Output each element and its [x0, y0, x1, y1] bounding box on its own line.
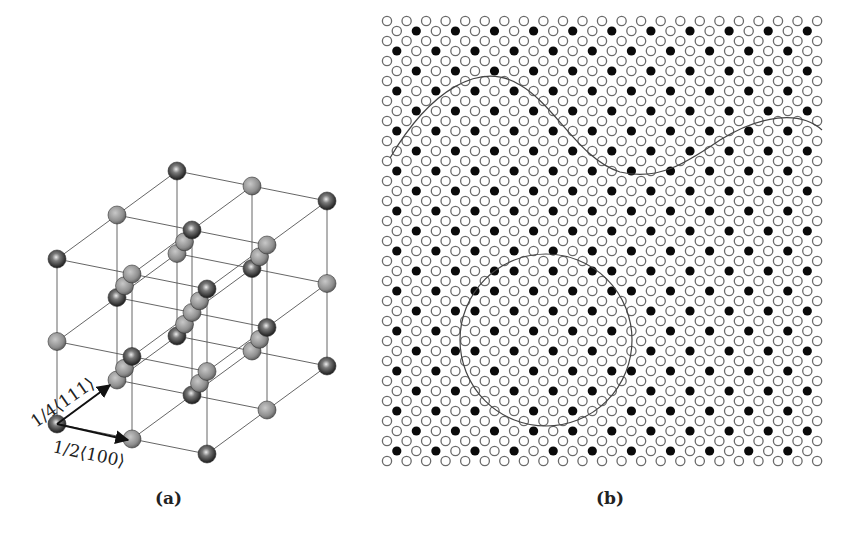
open-site: [392, 186, 401, 195]
open-site: [519, 456, 528, 465]
open-site: [578, 116, 587, 125]
open-site: [646, 46, 655, 55]
open-site: [813, 376, 822, 385]
open-site: [666, 266, 675, 275]
open-site: [813, 356, 822, 365]
filled-site: [646, 386, 655, 395]
open-site: [813, 96, 822, 105]
open-site: [461, 396, 470, 405]
open-site: [500, 436, 509, 445]
open-site: [451, 126, 460, 135]
open-site: [490, 46, 499, 55]
open-site: [607, 46, 616, 55]
open-site: [412, 366, 421, 375]
open-site: [509, 226, 518, 235]
open-site: [402, 316, 411, 325]
open-site: [519, 396, 528, 405]
filled-site: [705, 46, 714, 55]
open-site: [793, 136, 802, 145]
open-site: [734, 416, 743, 425]
open-site: [715, 116, 724, 125]
open-site: [402, 96, 411, 105]
open-site: [744, 226, 753, 235]
open-site: [597, 296, 606, 305]
open-site: [813, 56, 822, 65]
open-site: [637, 196, 646, 205]
filled-site: [705, 326, 714, 335]
filled-site: [764, 426, 773, 435]
open-site: [734, 376, 743, 385]
open-site: [441, 16, 450, 25]
filled-site: [470, 86, 479, 95]
open-site: [470, 426, 479, 435]
open-site: [441, 436, 450, 445]
open-site: [480, 316, 489, 325]
open-site: [754, 156, 763, 165]
open-site: [637, 116, 646, 125]
gray-atom: [108, 206, 126, 224]
open-site: [764, 246, 773, 255]
filled-site: [685, 226, 694, 235]
open-site: [519, 336, 528, 345]
open-site: [813, 336, 822, 345]
open-site: [715, 36, 724, 45]
open-site: [422, 56, 431, 65]
filled-site: [431, 206, 440, 215]
filled-site: [783, 166, 792, 175]
open-site: [813, 36, 822, 45]
open-site: [637, 336, 646, 345]
open-site: [813, 196, 822, 205]
open-site: [705, 266, 714, 275]
open-site: [597, 316, 606, 325]
filled-site: [549, 206, 558, 215]
open-site: [793, 456, 802, 465]
filled-site: [431, 406, 440, 415]
open-site: [773, 36, 782, 45]
open-site: [500, 156, 509, 165]
open-site: [422, 356, 431, 365]
filled-site: [490, 106, 499, 115]
open-site: [382, 316, 391, 325]
filled-site: [607, 266, 616, 275]
panel-label-a: (a): [155, 488, 182, 508]
filled-site: [549, 166, 558, 175]
open-site: [597, 356, 606, 365]
open-site: [461, 36, 470, 45]
open-site: [754, 196, 763, 205]
open-site: [754, 276, 763, 285]
open-site: [744, 266, 753, 275]
open-site: [461, 276, 470, 285]
filled-site: [783, 366, 792, 375]
filled-site: [529, 406, 538, 415]
open-site: [764, 326, 773, 335]
open-site: [676, 316, 685, 325]
open-site: [685, 406, 694, 415]
open-site: [500, 376, 509, 385]
open-site: [597, 436, 606, 445]
open-site: [431, 186, 440, 195]
filled-site: [412, 186, 421, 195]
open-site: [480, 136, 489, 145]
open-site: [725, 406, 734, 415]
open-site: [509, 326, 518, 335]
gray-atom: [258, 401, 276, 419]
open-site: [500, 56, 509, 65]
open-site: [715, 96, 724, 105]
open-site: [422, 16, 431, 25]
open-site: [558, 76, 567, 85]
filled-site: [646, 26, 655, 35]
filled-site: [803, 386, 812, 395]
filled-site: [392, 446, 401, 455]
filled-site: [392, 126, 401, 135]
open-site: [734, 436, 743, 445]
filled-site: [509, 446, 518, 455]
open-site: [773, 276, 782, 285]
open-site: [402, 16, 411, 25]
open-site: [441, 56, 450, 65]
filled-site: [412, 66, 421, 75]
open-site: [793, 236, 802, 245]
open-site: [734, 196, 743, 205]
open-site: [382, 196, 391, 205]
open-site: [412, 126, 421, 135]
open-site: [597, 16, 606, 25]
